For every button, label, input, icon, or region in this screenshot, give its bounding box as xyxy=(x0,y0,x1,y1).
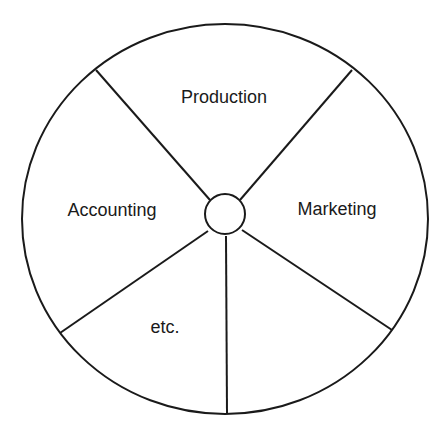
spoke-bottom xyxy=(226,236,227,414)
segment-label-marketing: Marketing xyxy=(297,199,376,219)
segment-label-accounting: Accounting xyxy=(67,200,156,220)
segment-label-etc: etc. xyxy=(150,317,179,337)
hub-circle xyxy=(205,194,245,234)
organization-wheel-diagram: Production Marketing etc. Accounting xyxy=(0,0,447,434)
segment-label-production: Production xyxy=(181,87,267,107)
spoke-lower-right xyxy=(242,230,392,330)
spoke-lower-left xyxy=(60,231,208,333)
